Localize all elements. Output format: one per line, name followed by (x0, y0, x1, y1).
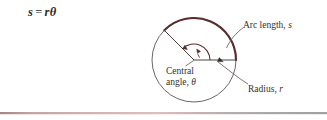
central-angle-label-variable: θ (191, 77, 196, 87)
central-angle-arrowhead-end (197, 49, 201, 54)
arc-length-label-text: Arc length, (243, 20, 286, 30)
arc-length-label-variable: s (288, 20, 292, 30)
central-angle-label: Central angle, θ (166, 66, 196, 88)
central-angle-label-line2: angle, (166, 77, 189, 87)
arc-length-highlight (164, 18, 236, 60)
central-angle-label-line2-wrap: angle, θ (166, 77, 196, 88)
figure-panel: s=rθ Arc length, s Radius, r Centra (0, 0, 327, 120)
bottom-divider-rule-shadow (0, 114, 327, 115)
central-angle-arc (183, 44, 210, 60)
arc-length-label: Arc length, s (243, 20, 292, 31)
circle-diagram (0, 0, 327, 120)
radius-label: Radius, r (248, 84, 283, 95)
central-angle-tick (198, 54, 200, 57)
radius-label-variable: r (279, 84, 283, 94)
radius-label-text: Radius, (248, 84, 277, 94)
central-angle-label-line1: Central (166, 66, 196, 77)
radius-leader-line (218, 62, 249, 85)
